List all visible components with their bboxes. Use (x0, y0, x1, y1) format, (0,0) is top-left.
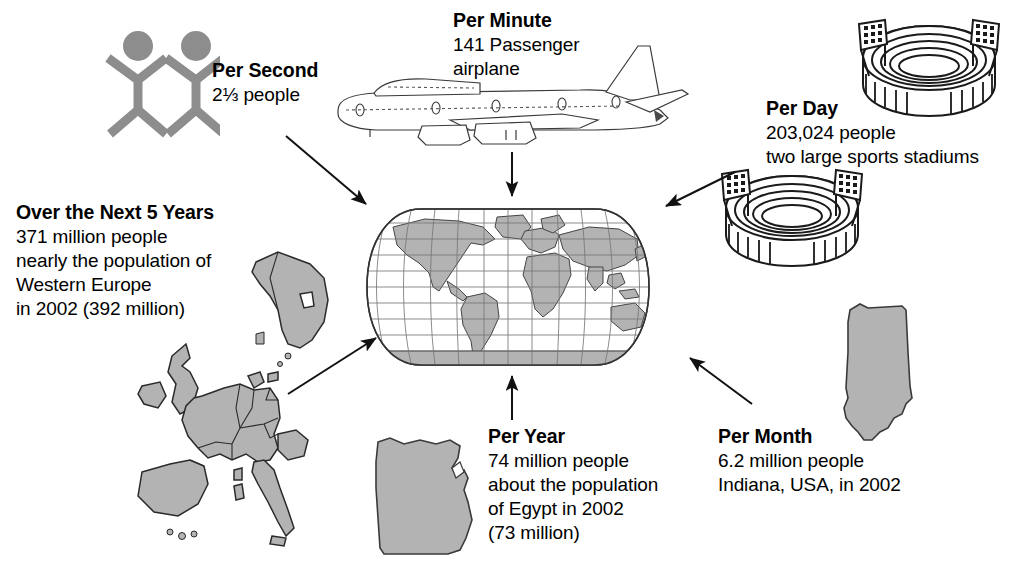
label-line: nearly the population of (16, 249, 214, 273)
label-per-year: Per Year 74 million people about the pop… (488, 424, 658, 545)
arrow-per-month (690, 358, 752, 404)
label-line: airplane (453, 57, 580, 81)
label-title: Per Minute (453, 8, 580, 33)
label-line: 6.2 million people (718, 449, 901, 473)
label-title: Per Month (718, 424, 901, 449)
label-line: 74 million people (488, 449, 658, 473)
label-title: Over the Next 5 Years (16, 200, 214, 225)
label-line: in 2002 (392 million) (16, 297, 214, 321)
label-line: two large sports stadiums (766, 145, 979, 169)
infographic-canvas: Per Second 2⅓ people Per Minute 141 Pass… (0, 0, 1009, 567)
label-per-second: Per Second 2⅓ people (212, 58, 318, 107)
label-line: 203,024 people (766, 121, 979, 145)
label-line: 2⅓ people (212, 83, 318, 107)
label-line: 371 million people (16, 225, 214, 249)
label-per-minute: Per Minute 141 Passenger airplane (453, 8, 580, 81)
label-line: (73 million) (488, 521, 658, 545)
label-line: of Egypt in 2002 (488, 497, 658, 521)
egypt-map-icon (368, 428, 480, 560)
label-line: about the population (488, 473, 658, 497)
label-over-next-5-years: Over the Next 5 Years 371 million people… (16, 200, 214, 321)
world-map-globe-icon (363, 205, 653, 370)
label-title: Per Year (488, 424, 658, 449)
label-per-month: Per Month 6.2 million people Indiana, US… (718, 424, 901, 497)
stick-people-icon (70, 14, 220, 139)
label-line: Indiana, USA, in 2002 (718, 473, 901, 497)
label-per-day: Per Day 203,024 people two large sports … (766, 96, 979, 169)
label-title: Per Second (212, 58, 318, 83)
label-line: Western Europe (16, 273, 214, 297)
label-title: Per Day (766, 96, 979, 121)
stadium-icon (718, 168, 866, 274)
label-line: 141 Passenger (453, 33, 580, 57)
